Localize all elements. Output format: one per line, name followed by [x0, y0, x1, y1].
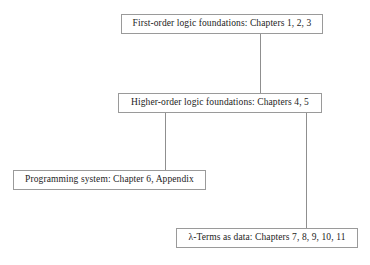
node-label-lambda-terms-as-data: λ-Terms as data: Chapters 7, 8, 9, 10, 1…: [187, 233, 346, 243]
node-label-first-order-logic-foundations: First-order logic foundations: Chapters …: [132, 19, 313, 29]
connector-first-order-to-higher-order: [260, 34, 261, 93]
node-higher-order-logic-foundations: Higher-order logic foundations: Chapters…: [118, 93, 322, 113]
node-label-programming-system: Programming system: Chapter 6, Appendix: [24, 175, 195, 185]
node-label-higher-order-logic-foundations: Higher-order logic foundations: Chapters…: [130, 98, 310, 108]
node-first-order-logic-foundations: First-order logic foundations: Chapters …: [121, 14, 323, 34]
diagram-canvas: First-order logic foundations: Chapters …: [0, 0, 370, 265]
connector-higher-order-to-lambda-terms: [306, 113, 307, 228]
connector-higher-order-to-programming-system: [165, 113, 166, 170]
node-programming-system: Programming system: Chapter 6, Appendix: [13, 170, 206, 190]
node-lambda-terms-as-data: λ-Terms as data: Chapters 7, 8, 9, 10, 1…: [176, 228, 358, 248]
